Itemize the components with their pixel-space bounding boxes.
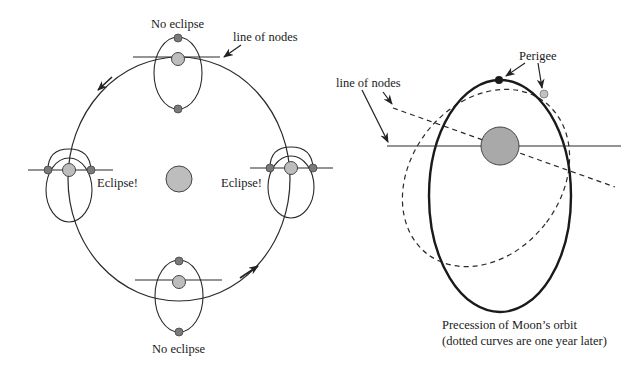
label-top-no-eclipse: No eclipse: [151, 17, 205, 31]
perigee-point-dashed: [540, 90, 548, 98]
earth-icon: [63, 164, 76, 177]
moon-icon: [44, 166, 52, 174]
orbit-direction-arrow-bottom-right: [240, 266, 258, 278]
earth-position-top: [133, 34, 220, 113]
label-perigee: Perigee: [519, 49, 557, 63]
right-precession-diagram: line of nodes Perigee Precession of Moon…: [336, 49, 621, 348]
perigee-pointer-arrow-1: [506, 63, 525, 76]
perigee-pointer-arrow-2: [538, 63, 542, 88]
caption-line-2: (dotted curves are one year later): [442, 334, 607, 348]
earth-position-right: [250, 147, 333, 218]
moon-icon: [309, 164, 317, 172]
label-line-of-nodes: line of nodes: [233, 30, 298, 44]
perigee-point-solid: [495, 76, 503, 84]
moon-orbit-diagram: No eclipse No eclipse Eclipse! Eclipse! …: [0, 0, 639, 367]
moon-orbit-solid: [429, 80, 571, 312]
moon-icon: [174, 105, 182, 113]
label-left-eclipse: Eclipse!: [97, 176, 138, 190]
moon-orbit-top: [154, 37, 202, 109]
label-bottom-no-eclipse: No eclipse: [152, 342, 206, 356]
caption-line-1: Precession of Moon’s orbit: [442, 318, 578, 332]
moon-icon: [175, 328, 183, 336]
moon-icon: [87, 166, 95, 174]
earth-icon: [173, 276, 186, 289]
earth-icon: [481, 127, 519, 165]
label-line-of-nodes-right: line of nodes: [336, 76, 401, 90]
earth-icon: [285, 162, 298, 175]
sun-icon: [166, 166, 192, 192]
line-of-nodes-pointer-arrow: [224, 45, 241, 57]
line-of-nodes-pointer-arrow-dashed: [383, 92, 392, 104]
moon-icon: [174, 34, 182, 42]
left-orbit-diagram: No eclipse No eclipse Eclipse! Eclipse! …: [28, 17, 333, 356]
line-of-nodes-pointer-arrow-solid: [362, 90, 388, 142]
earth-icon: [172, 53, 185, 66]
moon-icon: [175, 257, 183, 265]
label-right-eclipse: Eclipse!: [221, 176, 262, 190]
moon-orbit-bottom: [155, 260, 203, 332]
moon-icon: [266, 164, 274, 172]
precessed-orbit-dashed: [368, 56, 604, 300]
